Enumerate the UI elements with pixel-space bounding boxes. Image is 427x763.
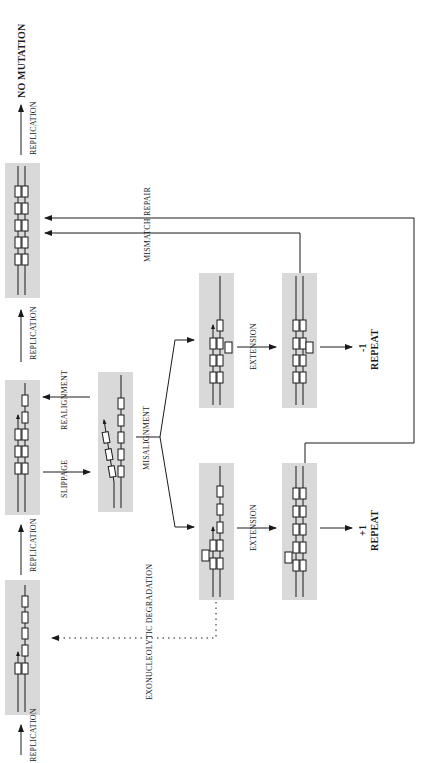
label-replication-2: REPLICATION	[29, 518, 38, 572]
label-replication-4: REPLICATION	[29, 101, 38, 155]
label-slippage: SLIPPAGE	[60, 460, 69, 498]
exonucleolytic-arrow	[52, 602, 216, 638]
label-mismatch-repair: MISMATCH REPAIR	[143, 187, 152, 262]
label-plus-one-repeat: REPEAT	[369, 510, 380, 551]
label-extension-plus: EXTENSION	[249, 504, 258, 551]
misalignment-branch-plus	[160, 437, 194, 527]
label-plus-one: +1	[357, 525, 368, 536]
mismatch-repair-line-plus	[45, 218, 414, 463]
label-replication-3: REPLICATION	[29, 306, 38, 360]
mismatch-repair-line-minus	[45, 233, 300, 273]
label-minus-one: -1	[357, 343, 368, 352]
misalignment-branch-minus	[160, 340, 194, 437]
label-extension-minus: EXTENSION	[249, 323, 258, 370]
label-realignment: REALIGNMENT	[60, 370, 69, 430]
label-exonucleolytic-degradation: EXONUCLEOLYTIC DEGRADATION	[145, 564, 154, 700]
label-minus-one-repeat: REPEAT	[369, 329, 380, 370]
label-misalignment: MISALIGNMENT	[142, 406, 151, 470]
label-replication-1: REPLICATION	[29, 708, 38, 762]
label-no-mutation: NO MUTATION	[16, 24, 27, 98]
